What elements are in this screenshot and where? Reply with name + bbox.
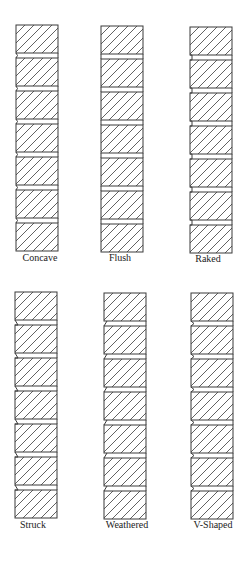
- brick-stack-flush-icon: [100, 26, 146, 258]
- brick-stack-raked-icon: [189, 27, 235, 259]
- label-concave: Concave: [14, 252, 66, 263]
- brick-stack-struck-icon: [14, 292, 60, 524]
- label-v-shaped: V-Shaped: [186, 519, 240, 530]
- brick-stack-concave-icon: [15, 25, 61, 257]
- label-raked: Raked: [184, 253, 232, 264]
- label-flush: Flush: [96, 252, 144, 263]
- label-weathered: Weathered: [99, 519, 155, 530]
- label-struck: Struck: [9, 519, 57, 530]
- brick-stack-weathered-icon: [103, 293, 149, 525]
- brick-stack-v-shaped-icon: [190, 293, 236, 525]
